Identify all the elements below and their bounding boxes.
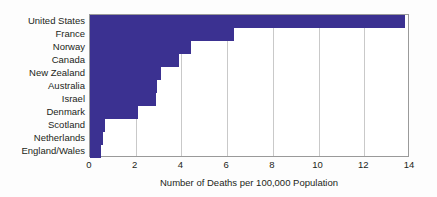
bar-row <box>90 15 410 28</box>
y-axis-labels: United StatesFranceNorwayCanadaNew Zeala… <box>0 14 85 157</box>
y-axis-label: Netherlands <box>0 132 85 143</box>
bar-row <box>90 93 410 106</box>
x-axis-tick-label: 8 <box>269 159 274 170</box>
bar-row <box>90 106 410 119</box>
x-axis-tick-label: 12 <box>358 159 369 170</box>
bar <box>90 93 156 106</box>
x-axis-tick-label: 2 <box>132 159 137 170</box>
y-axis-label: Scotland <box>0 119 85 130</box>
bar <box>90 80 157 93</box>
bar-row <box>90 41 410 54</box>
bar <box>90 41 191 54</box>
x-axis-tick-label: 0 <box>86 159 91 170</box>
y-axis-label: Australia <box>0 80 85 91</box>
y-axis-label: Canada <box>0 54 85 65</box>
y-axis-label: France <box>0 28 85 39</box>
bar <box>90 119 105 132</box>
x-axis-tick-label: 6 <box>223 159 228 170</box>
bar <box>90 106 138 119</box>
bar <box>90 132 103 145</box>
y-axis-label: United States <box>0 15 85 26</box>
plot-area <box>89 14 409 157</box>
y-axis-label: Israel <box>0 93 85 104</box>
y-axis-label: Norway <box>0 41 85 52</box>
y-axis-label: Denmark <box>0 106 85 117</box>
bar <box>90 145 101 158</box>
bar-chart-figure: United StatesFranceNorwayCanadaNew Zeala… <box>0 0 437 197</box>
x-axis-tick-label: 10 <box>312 159 323 170</box>
bar-row <box>90 28 410 41</box>
x-axis-tick-labels: 02468101214 <box>89 159 409 173</box>
bar-row <box>90 132 410 145</box>
bars-layer <box>90 15 408 156</box>
y-axis-label: England/Wales <box>0 145 85 156</box>
bar-row <box>90 54 410 67</box>
x-axis-title: Number of Deaths per 100,000 Population <box>89 177 409 188</box>
bar <box>90 15 405 28</box>
y-axis-label: New Zealand <box>0 67 85 78</box>
x-axis-tick-label: 14 <box>404 159 415 170</box>
bar-row <box>90 67 410 80</box>
bar-row <box>90 145 410 158</box>
bar-row <box>90 119 410 132</box>
bar <box>90 67 161 80</box>
bar <box>90 28 234 41</box>
bar <box>90 54 179 67</box>
x-axis-tick-label: 4 <box>178 159 183 170</box>
bar-row <box>90 80 410 93</box>
